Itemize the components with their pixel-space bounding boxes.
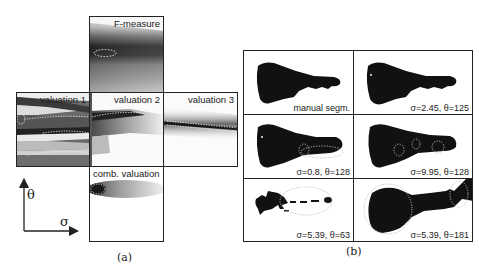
comb-valuation-label: comb. valuation [93,168,160,179]
cell-label: σ=2.45, θ=125 [410,103,469,113]
cell-label: σ=0.8, θ=128 [296,167,350,177]
cell-sigma-9.95-theta-128: σ=9.95, θ=128 [353,114,473,179]
valuation-3-panel: valuation 3 [163,92,238,167]
cell-sigma-5.39-theta-63: σ=5.39, θ=63 [243,178,354,242]
theta-axis-label: θ [27,187,35,202]
sigma-axis-label: σ [60,214,69,229]
f-measure-panel: F-measure [89,16,164,93]
valuation-1-label: valuation 1 [40,94,86,105]
valuation-2-panel: valuation 2 [89,92,164,167]
comb-valuation-panel: comb. valuation [89,166,164,242]
cell-sigma-0.8-theta-128: σ=0.8, θ=128 [243,114,354,179]
f-measure-label: F-measure [114,18,160,29]
cell-label: manual segm. [293,103,350,113]
cell-manual-segm: manual segm. [243,50,354,115]
valuation-2-label: valuation 2 [114,94,160,105]
cell-label: σ=5.39, θ=181 [410,230,469,240]
caption-b: (b) [346,245,362,258]
caption-a: (a) [117,251,132,264]
valuation-3-label: valuation 3 [188,94,234,105]
cell-sigma-5.39-theta-181: σ=5.39, θ=181 [353,178,473,242]
cell-sigma-2.45-theta-125: σ=2.45, θ=125 [353,50,473,115]
cell-label: σ=5.39, θ=63 [296,230,350,240]
valuation-1-panel: valuation 1 [16,92,90,167]
cell-label: σ=9.95, θ=128 [410,167,469,177]
axes-arrows [18,175,86,239]
